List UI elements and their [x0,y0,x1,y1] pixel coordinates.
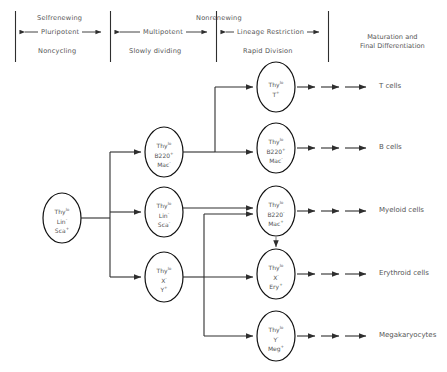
output-label-b-cells: B cells [379,143,402,151]
stem-cell-markers: ThyloLin-Sca+ [42,206,82,235]
marker-pluripotent-stem-cell-0: Thylo [42,206,82,216]
multipotent-lymphoid-markers: ThyloB220+Mac- [144,140,184,169]
marker-myeloid-progenitor-1: B220- [256,209,296,219]
marker-pluripotent-stem-cell-2: Sca+ [42,225,82,235]
maturation-line-2: Final Differentiation [360,42,425,51]
marker-megakaryocyte-progenitor-0: Thylo [256,324,296,334]
stage-top-label-pluripotent: Selfrenewing [37,14,82,22]
maturation-line-1: Maturation and [360,33,425,42]
myeloid-progenitor-markers: ThyloB220-Mac+ [256,199,296,228]
output-label-megakaryocytes: Megakaryocytes [379,331,436,339]
marker-t-cell-progenitor-0: Thylo [256,79,296,89]
stage-bottom-label-pluripotent: Noncycling [38,47,76,55]
marker-erythroid-progenitor-2: Ery+ [256,281,296,291]
marker-multipotent-lymphoid-progenitor-2: Mac- [144,159,184,169]
b-progenitor-markers: ThyloB220+Mac- [256,136,296,165]
marker-erythroid-progenitor-1: X- [256,272,296,282]
differentiation-diagram: Selfrenewing Pluripotent Noncycling Mult… [0,0,447,372]
marker-multipotent-progenitor-2: Sca- [144,219,184,229]
marker-multipotent-erythro-megakaryocyte-progenitor-1: X- [144,275,184,285]
marker-myeloid-progenitor-2: Mac+ [256,218,296,228]
marker-b-cell-progenitor-2: Mac- [256,155,296,165]
marker-pluripotent-stem-cell-1: Lin- [42,216,82,226]
stage-arrow-label-multipotent: Multipotent [140,28,186,36]
marker-megakaryocyte-progenitor-1: Y- [256,334,296,344]
marker-multipotent-lymphoid-progenitor-1: B220+ [144,150,184,160]
marker-multipotent-lymphoid-progenitor-0: Thylo [144,140,184,150]
marker-multipotent-progenitor-1: Lin- [144,210,184,220]
output-label-myeloid-cells: Myeloid cells [379,206,424,214]
multipotent-lower-markers: ThyloX-Y+ [144,265,184,294]
marker-b-cell-progenitor-0: Thylo [256,136,296,146]
stage-arrow-label-lineage: Lineage Restriction [234,28,307,36]
marker-b-cell-progenitor-1: B220+ [256,146,296,156]
stage-top-label-lineage: Nonrenewing [196,14,242,22]
multipotent-mid-markers: ThyloLin-Sca- [144,200,184,229]
megakaryocyte-progenitor-markers: ThyloY-Meg+ [256,324,296,353]
stage-bottom-label-multipotent: Slowly dividing [129,47,181,55]
marker-multipotent-erythro-megakaryocyte-progenitor-2: Y+ [144,284,184,294]
marker-erythroid-progenitor-0: Thylo [256,262,296,272]
stage-bottom-label-lineage: Rapid Division [243,47,293,55]
t-progenitor-markers: ThyloT+ [256,79,296,98]
marker-myeloid-progenitor-0: Thylo [256,199,296,209]
output-label-erythroid-cells: Erythroid cells [379,269,429,277]
stage-arrow-label-pluripotent: Pluripotent [38,28,82,36]
marker-megakaryocyte-progenitor-2: Meg+ [256,343,296,353]
output-label-t-cells: T cells [379,82,401,90]
maturation-label: Maturation and Final Differentiation [360,33,425,51]
diagram-canvas [0,0,447,372]
marker-multipotent-progenitor-0: Thylo [144,200,184,210]
erythroid-progenitor-markers: ThyloX-Ery+ [256,262,296,291]
marker-multipotent-erythro-megakaryocyte-progenitor-0: Thylo [144,265,184,275]
marker-t-cell-progenitor-1: T+ [256,89,296,99]
